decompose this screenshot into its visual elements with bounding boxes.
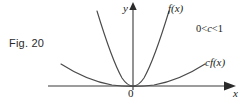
x-axis-label: x bbox=[233, 88, 238, 99]
graph-canvas bbox=[0, 0, 244, 103]
origin-label: 0 bbox=[128, 88, 134, 99]
curve-label-c-f-of-x: cf(x) bbox=[205, 57, 225, 68]
curve-label-f-of-x: f(x) bbox=[168, 3, 183, 14]
y-axis-label: y bbox=[123, 3, 128, 14]
y-axis bbox=[129, 2, 136, 90]
condition-left-bound: 0< bbox=[196, 23, 207, 34]
figure-caption: Fig. 20 bbox=[9, 38, 44, 49]
figure-20-container: Fig. 20 f(x) cf(x) 0<c<1 y x 0 bbox=[0, 0, 244, 103]
condition-annotation: 0<c<1 bbox=[196, 24, 223, 35]
condition-right-bound: <1 bbox=[212, 23, 223, 34]
